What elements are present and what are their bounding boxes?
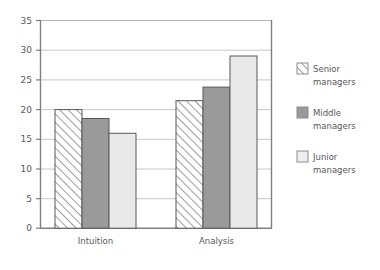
legend-swatch-senior [297, 63, 308, 74]
bar-middle-intuition [82, 119, 109, 229]
y-axis-ticks [36, 21, 40, 229]
legend-swatch-junior [297, 151, 308, 162]
ytick-label-20: 20 [21, 105, 33, 115]
y-axis-tick-labels: 0 5 10 15 20 25 30 35 [21, 16, 33, 234]
legend-label-middle-line1: Middle [313, 108, 341, 118]
legend-label-junior-line1: Junior [312, 152, 338, 162]
legend-item-middle-managers[interactable]: Middle managers [297, 107, 356, 131]
legend-label-senior-line1: Senior [313, 64, 341, 74]
bar-senior-intuition [55, 110, 82, 229]
bar-senior-analysis [176, 101, 203, 229]
legend-label-senior-line2: managers [313, 77, 356, 87]
ytick-label-35: 35 [21, 16, 32, 26]
bar-junior-intuition [109, 133, 136, 228]
legend-item-junior-managers[interactable]: Junior managers [297, 151, 356, 175]
legend-swatch-middle [297, 107, 308, 118]
category-label-analysis: Analysis [199, 236, 235, 246]
ytick-label-5: 5 [26, 194, 32, 204]
category-label-intuition: Intuition [78, 236, 113, 246]
ytick-label-0: 0 [26, 223, 32, 233]
ytick-label-15: 15 [21, 134, 32, 144]
legend-label-middle-line2: managers [313, 121, 356, 131]
chart-legend: Senior managers Middle managers Junior m… [297, 63, 356, 175]
bar-middle-analysis [203, 87, 230, 228]
legend-label-junior-line2: managers [313, 165, 356, 175]
bar-chart: 0 5 10 15 20 25 30 35 Intuition Analysis [0, 0, 380, 270]
ytick-label-25: 25 [21, 75, 32, 85]
bar-junior-analysis [230, 56, 257, 228]
ytick-label-10: 10 [21, 164, 33, 174]
chart-svg: 0 5 10 15 20 25 30 35 Intuition Analysis [0, 0, 380, 270]
legend-item-senior-managers[interactable]: Senior managers [297, 63, 356, 87]
ytick-label-30: 30 [21, 45, 33, 55]
